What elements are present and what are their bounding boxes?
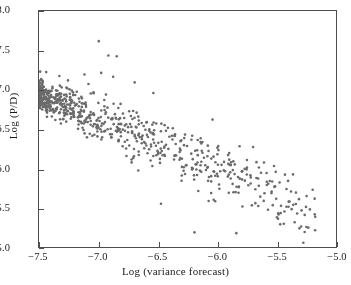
y-tick-mark [39, 51, 44, 52]
y-tick-label: 7.0 [0, 84, 10, 95]
x-tick-mark [99, 242, 100, 247]
x-tick-label: −5.0 [312, 251, 351, 262]
x-tick-label: −6.0 [192, 251, 242, 262]
scatter-points-layer [39, 11, 338, 249]
y-tick-label: 5.5 [0, 203, 10, 214]
x-tick-label: −7.0 [73, 251, 123, 262]
x-tick-mark [337, 242, 338, 247]
y-tick-mark [39, 11, 44, 12]
plot-frame [38, 10, 337, 248]
y-tick-mark [39, 248, 44, 249]
y-tick-label: 6.5 [0, 124, 10, 135]
y-tick-mark [39, 170, 44, 171]
x-tick-mark [218, 242, 219, 247]
y-tick-label: 7.5 [0, 45, 10, 56]
y-tick-mark [39, 90, 44, 91]
x-tick-mark [278, 242, 279, 247]
y-tick-label: 8.0 [0, 5, 10, 16]
y-axis-title: Log (P/D) [7, 56, 19, 176]
x-tick-mark [39, 242, 40, 247]
y-tick-label: 5.0 [0, 243, 10, 254]
scatter-plot-figure: Log (variance forecast) Log (P/D) 8.07.5… [0, 0, 351, 285]
x-tick-label: −6.5 [133, 251, 183, 262]
x-tick-mark [159, 242, 160, 247]
y-tick-mark [39, 209, 44, 210]
x-tick-label: −7.5 [13, 251, 63, 262]
x-axis-title: Log (variance forecast) [0, 265, 351, 277]
y-tick-mark [39, 130, 44, 131]
y-tick-label: 6.0 [0, 164, 10, 175]
x-tick-label: −5.5 [252, 251, 302, 262]
